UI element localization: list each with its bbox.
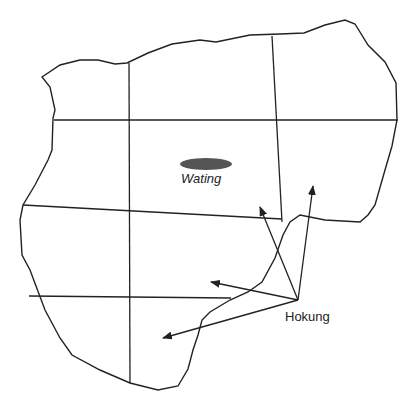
region-boundary [20, 20, 397, 390]
hokung-label: Hokung [285, 309, 330, 324]
grid-line-v1 [129, 63, 130, 383]
arrow-to-northeast [298, 186, 313, 300]
grid-line-v2 [272, 36, 282, 222]
wating-label: Wating [181, 171, 221, 186]
grid-line-h2 [23, 205, 282, 219]
map-canvas [0, 0, 412, 399]
wating-lake [180, 158, 232, 170]
arrow-to-southwest [163, 300, 298, 338]
